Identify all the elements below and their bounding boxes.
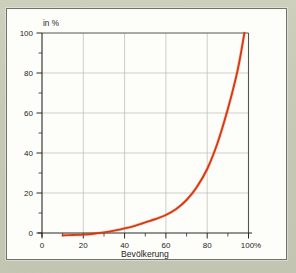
- y-tick-label-60: 60: [24, 109, 33, 118]
- series-curve-halo: [63, 33, 245, 235]
- x-tick-label-100: 100%: [241, 241, 261, 250]
- y-axis-unit-label: in %: [43, 19, 59, 28]
- x-axis-title: Bevölkerung: [121, 249, 169, 259]
- y-axis-ticks: [37, 33, 43, 233]
- y-tick-label-0: 0: [29, 229, 34, 238]
- y-tick-label-100: 100: [20, 29, 34, 38]
- line-chart: in % Bevölkerung 100 80 60 40 20 0 0 20 …: [7, 9, 286, 259]
- infographic-card: in % Bevölkerung 100 80 60 40 20 0 0 20 …: [6, 8, 287, 260]
- y-tick-label-80: 80: [24, 69, 33, 78]
- x-tick-label-40: 40: [120, 241, 129, 250]
- y-tick-labels: 100 80 60 40 20 0: [20, 29, 34, 238]
- x-tick-label-80: 80: [203, 241, 212, 250]
- y-tick-label-20: 20: [24, 189, 33, 198]
- x-tick-label-60: 60: [161, 241, 170, 250]
- gridlines: [42, 33, 249, 233]
- chart-figure: in % Bevölkerung 100 80 60 40 20 0 0 20 …: [7, 9, 286, 259]
- y-tick-label-40: 40: [24, 149, 33, 158]
- x-tick-label-0: 0: [40, 241, 45, 250]
- series-curve: [63, 33, 245, 235]
- x-tick-label-20: 20: [79, 241, 88, 250]
- plot-frame: [42, 33, 249, 233]
- data-series-group: [63, 33, 245, 235]
